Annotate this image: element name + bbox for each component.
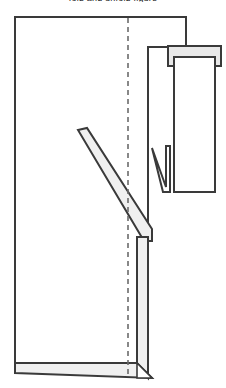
- right-vertical-strip: [137, 237, 148, 378]
- v-notch: [152, 146, 170, 192]
- figure-container: fold and unfold figure: [0, 0, 226, 388]
- technical-line-drawing: [0, 0, 226, 388]
- main-panel-outline: [15, 17, 186, 373]
- bottom-horizontal-strip: [15, 363, 152, 378]
- right-white-card: [174, 57, 215, 192]
